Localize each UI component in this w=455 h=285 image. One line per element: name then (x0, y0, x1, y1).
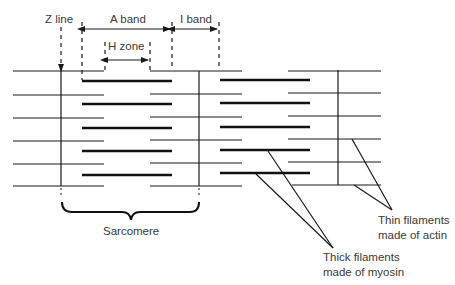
h-zone-label: H zone (108, 39, 144, 54)
thick-filaments-line-1: Thick filaments (323, 250, 404, 265)
pointer-lines (256, 139, 392, 248)
thin-pointer-1 (352, 139, 392, 210)
thick-filaments-label: Thick filaments made of myosin (323, 250, 404, 280)
thin-filaments (13, 71, 381, 186)
a-band-label: A band (110, 12, 146, 27)
thick-pointer-1 (268, 151, 333, 248)
i-band-label: I band (180, 12, 212, 27)
thin-pointer-2 (354, 185, 392, 210)
thin-filaments-label: Thin filaments made of actin (378, 213, 450, 243)
z-line-label: Z line (45, 12, 73, 27)
thin-filaments-line-1: Thin filaments (378, 213, 450, 228)
thin-filaments-line-2: made of actin (378, 228, 450, 243)
thick-filaments-line-2: made of myosin (323, 265, 404, 280)
sarcomere-brace (62, 202, 199, 220)
sarcomere-label: Sarcomere (103, 224, 159, 239)
